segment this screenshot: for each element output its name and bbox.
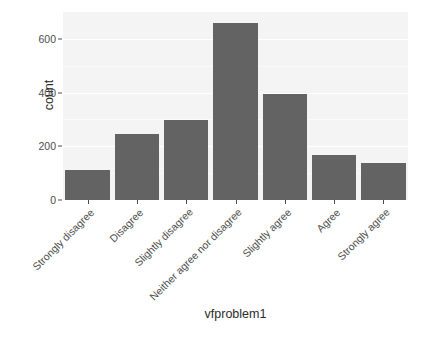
x-axis-tick-mark xyxy=(186,200,187,204)
x-axis-tick-label: Slightly agree xyxy=(240,206,293,259)
y-axis-tick-label: 400 xyxy=(38,87,56,99)
bar xyxy=(115,134,159,200)
x-axis-tick-mark xyxy=(88,200,89,204)
y-axis-tick-labels: 0200400600 xyxy=(28,0,56,344)
x-axis-tick-label: Disagree xyxy=(107,206,145,244)
bar xyxy=(65,170,109,200)
x-axis-tick-marks xyxy=(63,200,408,205)
x-axis-tick-mark xyxy=(383,200,384,204)
x-axis-tick-mark xyxy=(137,200,138,204)
plot-panel xyxy=(63,12,408,200)
x-axis-tick-mark xyxy=(285,200,286,204)
bar xyxy=(263,94,307,200)
x-axis-tick-label: Neither agree nor disagree xyxy=(147,206,244,303)
y-axis-tick-label: 600 xyxy=(38,33,56,45)
x-axis-tick-label: Strongly agree xyxy=(335,206,392,263)
y-axis-tick-mark xyxy=(58,92,62,93)
x-axis-tick-label-text: Slightly agree xyxy=(240,206,293,259)
bar xyxy=(312,155,356,200)
x-axis-tick-label-text: Neither agree nor disagree xyxy=(147,206,244,303)
x-axis-tick-label: Agree xyxy=(314,206,342,234)
y-axis-tick-label: 0 xyxy=(50,194,56,206)
x-axis-tick-label-text: Disagree xyxy=(107,206,145,244)
bar xyxy=(361,163,405,200)
bar-chart: count 0200400600 Strongly disagreeDisagr… xyxy=(0,0,424,344)
y-axis-tick-mark xyxy=(58,200,62,201)
x-axis-tick-mark xyxy=(236,200,237,204)
x-axis-tick-label-text: Strongly agree xyxy=(335,206,392,263)
x-axis-tick-labels: Strongly disagreeDisagreeSlightly disagr… xyxy=(63,206,408,301)
y-axis-tick-label: 200 xyxy=(38,140,56,152)
x-axis-tick-mark xyxy=(334,200,335,204)
y-axis-tick-mark xyxy=(58,38,62,39)
bar xyxy=(164,120,208,200)
x-axis-tick-label-text: Agree xyxy=(314,206,342,234)
y-axis-tick-mark xyxy=(58,146,62,147)
bar xyxy=(213,23,257,200)
x-axis-title: vfproblem1 xyxy=(63,307,408,321)
